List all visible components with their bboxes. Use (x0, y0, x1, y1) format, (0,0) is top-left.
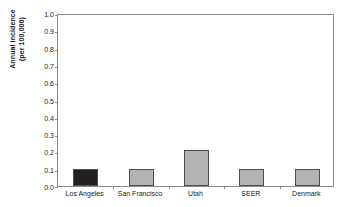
x-tick-mark (169, 186, 170, 189)
y-tick-mark (55, 136, 58, 137)
bar (239, 169, 264, 186)
plot-inner (58, 15, 333, 186)
bar (295, 169, 320, 186)
x-tick-label: Los Angeles (66, 190, 104, 197)
y-tick-mark (55, 102, 58, 103)
x-tick-mark (113, 186, 114, 189)
bar (73, 169, 98, 186)
x-tick-label: Utah (188, 190, 203, 197)
bar-chart: Annual incidence (per 100,000) 0.00.10.2… (0, 0, 342, 207)
y-tick-mark (55, 32, 58, 33)
y-tick-label: 0.9 (36, 28, 54, 35)
y-tick-mark (55, 15, 58, 16)
y-tick-label: 0.3 (36, 132, 54, 139)
y-tick-label: 0.7 (36, 62, 54, 69)
y-axis-title-line-2: (per 100,000) (17, 0, 26, 84)
y-tick-mark (55, 50, 58, 51)
x-tick-label: Denmark (292, 190, 320, 197)
bar (184, 150, 209, 186)
y-tick-label: 0.1 (36, 166, 54, 173)
y-tick-label: 0.8 (36, 45, 54, 52)
y-tick-label: 0.2 (36, 149, 54, 156)
y-tick-mark (55, 187, 58, 188)
plot-area (57, 14, 334, 187)
y-tick-label: 0.5 (36, 97, 54, 104)
y-axis-title-line-1: Annual incidence (8, 0, 17, 84)
y-axis-tick-labels: 0.00.10.20.30.40.50.60.70.80.91.0 (36, 14, 54, 187)
x-tick-label: SEER (241, 190, 260, 197)
y-tick-label: 1.0 (36, 11, 54, 18)
y-tick-mark (55, 119, 58, 120)
y-tick-label: 0.4 (36, 114, 54, 121)
y-tick-label: 0.6 (36, 80, 54, 87)
y-axis-title: Annual incidence (per 100,000) (8, 0, 32, 84)
y-tick-label: 0.0 (36, 184, 54, 191)
x-tick-mark (224, 186, 225, 189)
y-tick-mark (55, 84, 58, 85)
bar (129, 169, 154, 186)
y-tick-mark (55, 153, 58, 154)
x-tick-label: San Francisco (118, 190, 163, 197)
y-tick-mark (55, 67, 58, 68)
x-axis-tick-labels: Los AngelesSan FranciscoUtahSEERDenmark (57, 190, 334, 204)
x-tick-mark (280, 186, 281, 189)
y-tick-mark (55, 171, 58, 172)
